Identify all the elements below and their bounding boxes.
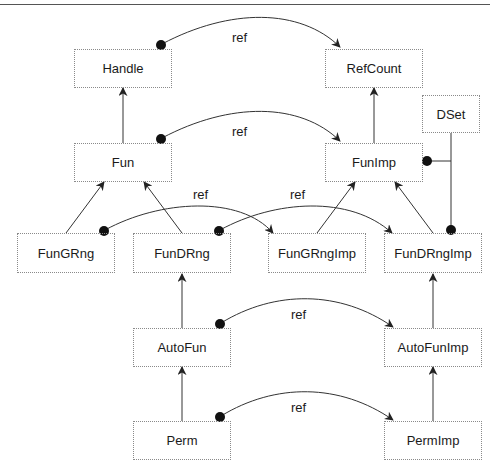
node-label: RefCount	[347, 61, 402, 76]
node-label: DSet	[437, 107, 466, 122]
ref-edge-handle-refcount	[162, 17, 340, 47]
node-label: Handle	[102, 61, 143, 76]
node-fun: Fun	[74, 143, 172, 182]
edge-label-fundrng-fundrngimp: ref	[290, 187, 305, 202]
node-handle: Handle	[74, 49, 172, 88]
node-label: FunDRngImp	[394, 246, 471, 261]
node-fundrng: FunDRng	[133, 233, 231, 273]
node-label: FunDRng	[154, 246, 210, 261]
inherit-fungrngimp-funimp	[317, 182, 355, 233]
dset-dot-funimp	[422, 156, 432, 166]
node-label: AutoFunImp	[398, 340, 469, 355]
node-perm: Perm	[133, 421, 231, 460]
edge-label-handle-refcount: ref	[232, 30, 247, 45]
node-autofun: AutoFun	[133, 328, 231, 367]
node-label: FunGRng	[38, 246, 94, 261]
inherit-fundrngimp-funimp	[395, 182, 433, 233]
edge-label-fun-funimp: ref	[232, 124, 247, 139]
node-label: Perm	[166, 433, 197, 448]
node-label: FunImp	[352, 155, 396, 170]
node-fundrngimp: FunDRngImp	[384, 233, 482, 273]
inherit-fungrng-fun	[66, 182, 104, 233]
node-label: Fun	[112, 155, 134, 170]
node-refcount: RefCount	[325, 49, 423, 88]
edge-label-perm-permimp: ref	[291, 400, 306, 415]
node-label: PermImp	[407, 433, 460, 448]
node-label: AutoFun	[157, 340, 206, 355]
edge-label-autofun-autofunimp: ref	[291, 307, 306, 322]
node-label: FunGRngImp	[278, 246, 356, 261]
node-permimp: PermImp	[384, 421, 482, 460]
edge-label-fungrng-fungrngimp: ref	[193, 187, 208, 202]
node-fungrng: FunGRng	[17, 233, 115, 273]
node-dset: DSet	[422, 95, 480, 133]
ref-edge-fun-funimp	[162, 111, 340, 141]
ref-edge-fungrng-fungrngimp	[105, 206, 273, 233]
node-fungrngimp: FunGRngImp	[268, 233, 366, 273]
node-autofunimp: AutoFunImp	[384, 328, 482, 367]
ref-edge-fundrng-fundrngimp	[220, 206, 392, 233]
node-funimp: FunImp	[325, 143, 423, 182]
ref-edge-perm-permimp	[221, 392, 393, 420]
ref-edge-autofun-autofunimp	[221, 299, 393, 327]
